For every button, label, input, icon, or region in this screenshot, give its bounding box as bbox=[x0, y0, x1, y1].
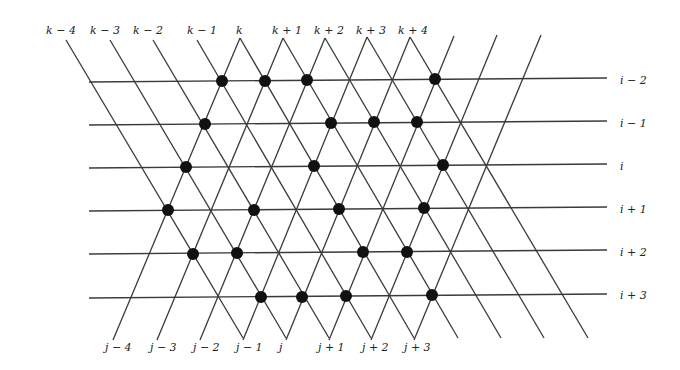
j-label: j − 4 bbox=[102, 341, 132, 354]
i-label: i + 1 bbox=[620, 203, 647, 216]
node-dot bbox=[255, 291, 267, 303]
k-label: k − 4 bbox=[46, 24, 76, 37]
node-dot bbox=[357, 246, 369, 258]
j-label: j − 3 bbox=[147, 341, 177, 354]
k-label: k bbox=[236, 24, 243, 37]
j-label: j bbox=[276, 341, 283, 354]
lattice-diagram: k − 4k − 3k − 2k − 1kk + 1k + 2k + 3k + … bbox=[0, 0, 680, 370]
k-label: k + 3 bbox=[356, 24, 386, 37]
i-label: i + 2 bbox=[620, 246, 647, 259]
node-dot bbox=[216, 75, 228, 87]
j-label: j + 2 bbox=[359, 341, 389, 354]
k-label: k − 3 bbox=[90, 24, 120, 37]
i-label: i − 2 bbox=[620, 74, 647, 87]
node-dot bbox=[368, 116, 380, 128]
k-label: k + 2 bbox=[314, 24, 344, 37]
node-dot bbox=[296, 291, 308, 303]
node-dot bbox=[401, 246, 413, 258]
i-labels: i − 2i − 1ii + 1i + 2i + 3 bbox=[620, 74, 647, 302]
j-labels: j − 4j − 3j − 2j − 1jj + 1j + 2j + 3 bbox=[102, 341, 431, 354]
k-line bbox=[367, 37, 544, 338]
node-dot bbox=[259, 75, 271, 87]
j-label: j − 1 bbox=[233, 341, 263, 354]
k-label: k − 2 bbox=[133, 24, 163, 37]
node-dot bbox=[162, 204, 174, 216]
node-dot bbox=[248, 204, 260, 216]
i-label: i bbox=[620, 160, 624, 173]
row-line bbox=[89, 121, 607, 125]
j-label: j + 1 bbox=[315, 341, 345, 354]
row-line bbox=[89, 250, 607, 254]
i-label: i + 3 bbox=[620, 289, 647, 302]
j-label: j + 3 bbox=[401, 341, 431, 354]
row-line bbox=[89, 78, 607, 82]
j-label: j − 2 bbox=[190, 341, 220, 354]
node-dot bbox=[180, 161, 192, 173]
node-dot bbox=[187, 248, 199, 260]
node-dot bbox=[418, 202, 430, 214]
node-dot bbox=[325, 117, 337, 129]
node-dot bbox=[429, 73, 441, 85]
node-dot bbox=[231, 247, 243, 259]
node-dot bbox=[333, 203, 345, 215]
node-dot bbox=[340, 290, 352, 302]
k-label: k + 1 bbox=[272, 24, 302, 37]
node-dot bbox=[199, 118, 211, 130]
k-line bbox=[325, 38, 501, 338]
node-dot bbox=[411, 116, 423, 128]
i-label: i − 1 bbox=[620, 117, 647, 130]
k-label: k + 4 bbox=[398, 24, 428, 37]
row-line bbox=[89, 164, 607, 168]
node-dot bbox=[426, 289, 438, 301]
k-label: k − 1 bbox=[187, 24, 217, 37]
node-dot bbox=[437, 159, 449, 171]
k-line bbox=[66, 40, 243, 338]
k-labels: k − 4k − 3k − 2k − 1kk + 1k + 2k + 3k + … bbox=[46, 24, 428, 37]
node-dot bbox=[308, 160, 320, 172]
node-dot bbox=[301, 74, 313, 86]
